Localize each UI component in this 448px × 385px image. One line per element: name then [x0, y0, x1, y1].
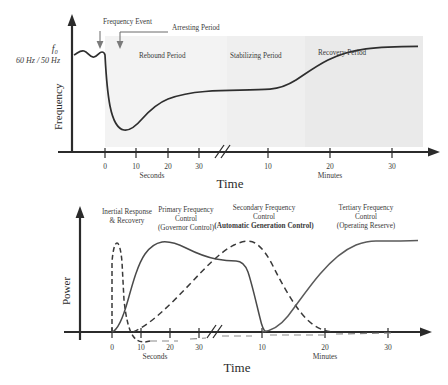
bottom-tick-20m: 20: [321, 343, 329, 352]
top-tick-20s: 20: [164, 162, 172, 171]
inertial-response-label-line1: Inertial Response: [102, 208, 152, 216]
f0-label: f₀: [52, 43, 59, 54]
bottom-tick-20s: 20: [166, 343, 174, 352]
bottom-y-axis-title: Power: [60, 277, 72, 305]
top-tick-30m: 30: [388, 162, 396, 171]
top-seconds-unit-label: Seconds: [140, 171, 165, 180]
frequency-event-label: Frequency Event: [103, 18, 152, 26]
secondary-frequency-control-label-line3: (Automatic Generation Control): [214, 222, 314, 230]
bottom-x-axis-arrow: [420, 328, 432, 337]
top-tick-10m: 10: [264, 162, 272, 171]
top-tick-20m: 20: [326, 162, 334, 171]
top-y-axis-title: Frequency: [52, 83, 64, 130]
top-x-axis-arrow: [428, 148, 440, 157]
top-minutes-unit-label: Minutes: [318, 171, 343, 180]
rebound-period-label: Rebound Period: [139, 52, 186, 60]
figure-root: Frequency Event Arresting Period Rebound…: [0, 0, 448, 385]
primary-frequency-control-label-line3: (Governor Control): [158, 224, 215, 232]
secondary-frequency-control-curve: [133, 241, 332, 332]
bottom-minutes-unit-label: Minutes: [313, 352, 338, 361]
top-chart: Frequency Event Arresting Period Rebound…: [16, 14, 440, 191]
tertiary-frequency-control-curve: [262, 241, 418, 333]
bottom-x-axis-title: Time: [224, 360, 251, 375]
inertial-response-label-line2: & Recovery: [110, 217, 145, 225]
bottom-tick-30s: 30: [195, 343, 203, 352]
stabilizing-period-label: Stabilizing Period: [230, 52, 282, 60]
bottom-tick-30m: 30: [384, 343, 392, 352]
top-tick-10s: 10: [132, 162, 140, 171]
figure-svg: Frequency Event Arresting Period Rebound…: [0, 0, 448, 385]
bottom-tick-0: 0: [110, 343, 114, 352]
top-x-axis-title: Time: [217, 176, 244, 191]
tertiary-frequency-control-label-line1: Tertiary Frequency: [339, 204, 394, 212]
bottom-tick-10m: 10: [258, 343, 266, 352]
primary-frequency-control-label-line1: Primary Frequency: [158, 206, 214, 214]
primary-frequency-control-label-line2: Control: [175, 215, 197, 223]
bottom-seconds-unit-label: Seconds: [143, 352, 168, 361]
recovery-period-label: Recovery Period: [318, 49, 367, 57]
top-tick-30s: 30: [195, 162, 203, 171]
bottom-y-axis-arrow: [76, 206, 85, 218]
arresting-period-label: Arresting Period: [172, 24, 220, 32]
top-y-axis-arrow: [68, 14, 77, 26]
top-tick-0: 0: [103, 162, 107, 171]
frequency-event-arrowhead: [97, 41, 104, 49]
secondary-frequency-control-label-line1: Secondary Frequency: [233, 204, 296, 212]
axis-level-dashed-segments: [150, 333, 392, 341]
bottom-chart: Inertial Response & Recovery Primary Fre…: [60, 204, 432, 375]
tertiary-frequency-control-label-line3: (Operating Reserve): [337, 222, 396, 230]
bottom-tick-10s: 10: [137, 343, 145, 352]
tertiary-frequency-control-label-line2: Control: [355, 213, 377, 221]
secondary-frequency-control-label-line2: Control: [253, 213, 275, 221]
primary-frequency-control-curve: [112, 242, 266, 332]
hz-label: 60 Hz / 50 Hz: [16, 56, 61, 65]
